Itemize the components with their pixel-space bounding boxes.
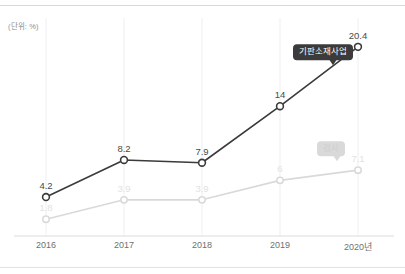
callout-light-series[interactable]: 검사 bbox=[317, 141, 345, 157]
callout-light-text: 검사 bbox=[323, 143, 339, 153]
callout-dark-series[interactable]: 기판소재사업 bbox=[293, 44, 353, 60]
data-point-marker[interactable] bbox=[43, 216, 49, 222]
data-point-marker[interactable] bbox=[277, 103, 284, 110]
x-axis-tick-2017: 2017 bbox=[114, 240, 134, 250]
x-axis-labels: 20162017201820192020년 bbox=[28, 240, 380, 256]
data-point-marker[interactable] bbox=[355, 43, 362, 50]
data-point-marker[interactable] bbox=[121, 197, 127, 203]
data-point-marker[interactable] bbox=[355, 167, 361, 173]
top-divider bbox=[0, 5, 405, 6]
data-point-marker[interactable] bbox=[277, 177, 283, 183]
value-label: 6 bbox=[277, 163, 282, 174]
value-label: 14 bbox=[275, 89, 286, 100]
chart-canvas: (단위: %) 20162017201820192020년 4.28.27.91… bbox=[0, 0, 405, 274]
value-label: 20.4 bbox=[349, 30, 368, 41]
value-label: 8.2 bbox=[117, 143, 130, 154]
x-axis-tick-2020: 2020년 bbox=[344, 240, 372, 253]
callout-dark-text: 기판소재사업 bbox=[299, 46, 347, 56]
callout-tail-icon bbox=[329, 59, 337, 65]
value-label: 3.9 bbox=[195, 183, 208, 194]
value-label: 7.9 bbox=[195, 146, 208, 157]
x-axis-tick-2016: 2016 bbox=[36, 240, 56, 250]
x-axis-tick-2019: 2019 bbox=[270, 240, 290, 250]
value-label: 4.2 bbox=[39, 180, 52, 191]
value-label: 1.8 bbox=[39, 202, 52, 213]
value-label: 3.9 bbox=[117, 183, 130, 194]
bottom-divider bbox=[0, 267, 405, 268]
data-point-marker[interactable] bbox=[199, 159, 206, 166]
data-point-marker[interactable] bbox=[199, 197, 205, 203]
data-point-marker[interactable] bbox=[121, 157, 128, 164]
value-label: 7.1 bbox=[351, 153, 364, 164]
callout-tail-icon bbox=[333, 156, 341, 162]
x-axis-tick-2018: 2018 bbox=[192, 240, 212, 250]
data-point-marker[interactable] bbox=[43, 194, 50, 201]
